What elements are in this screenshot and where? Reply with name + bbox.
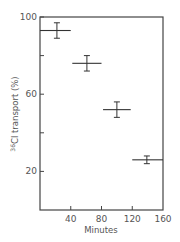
chart: 2060100 4080120160 Minutes 36Cl transpor… <box>0 0 180 242</box>
y-tick-label: 20 <box>26 166 38 176</box>
y-axis-label: 36Cl transport (%) <box>9 76 20 151</box>
plot-frame <box>40 17 163 210</box>
x-tick-label: 80 <box>96 214 108 224</box>
x-axis-label: Minutes <box>84 225 118 235</box>
y-tick-label: 60 <box>26 89 38 99</box>
x-tick-label: 40 <box>65 214 77 224</box>
y-axis-label-text: Cl transport (%) <box>10 76 20 144</box>
plot-border <box>40 17 163 210</box>
x-tick-label: 120 <box>124 214 141 224</box>
data-point <box>72 56 101 71</box>
data-point <box>103 102 131 117</box>
y-tick-label: 100 <box>20 12 37 22</box>
x-axis-ticks: 4080120160 <box>65 206 172 224</box>
y-axis-label-superscript: 36 <box>9 144 16 152</box>
data-point <box>132 156 163 164</box>
data-point <box>40 23 71 38</box>
x-tick-label: 160 <box>154 214 171 224</box>
data-points <box>40 23 163 164</box>
